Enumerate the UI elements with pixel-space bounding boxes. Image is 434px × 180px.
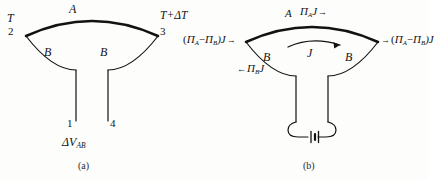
panel-b-battery-wire-right (318, 122, 336, 137)
panel-b-top-flux-current: J (312, 5, 317, 17)
panel-a-caption: (a) (78, 160, 89, 171)
panel-a-terminal-1: 1 (67, 118, 73, 129)
panel-b-right-flux-pi-a: Π (395, 33, 403, 45)
panel-a-conductor-b-right-arc (108, 36, 158, 70)
panel-a-voltage-symbol: ΔV (62, 135, 76, 149)
panel-b-lower-heat-flux: ←ΠBJ (237, 63, 264, 75)
panel-b-left-heat-flux: (ΠA−ΠB)J→ (183, 34, 236, 46)
panel-a-voltage-label: ΔVAB (62, 136, 85, 149)
panel-b-right-flux-pi-b: Π (413, 33, 421, 45)
panel-b-right-flux-arrow-icon: → (381, 35, 390, 45)
panel-b-battery-wire-left (288, 122, 308, 137)
panel-a-label-b-right: B (100, 46, 107, 58)
panel-b-conductor-a-arc (246, 27, 378, 42)
panel-b-right-flux-close: )J (425, 33, 434, 45)
panel-b-label-b-left: B (263, 51, 270, 63)
panel-a-node-3: 3 (160, 26, 166, 37)
panel-a-label-b-left: B (44, 46, 51, 58)
panel-a-label-arc-top: A (69, 3, 76, 15)
panel-b-left-flux-pi-a: Π (187, 33, 195, 45)
panel-b-top-flux-arrow-icon: → (318, 7, 327, 17)
panel-b-top-heat-flux: ΠAJ→ (300, 6, 327, 18)
panel-a-temperature-right: T+ΔT (160, 10, 187, 22)
panel-b-top-flux-pi: Π (300, 5, 308, 17)
panel-a-voltage-subscript: AB (76, 141, 85, 150)
panel-b-right-heat-flux: →(ΠA−ΠB)J (381, 34, 434, 46)
panel-a-node-2: 2 (8, 26, 14, 37)
panel-b-lower-flux-current: J (259, 62, 264, 74)
panel-b-left-flux-close: )J (217, 33, 226, 45)
current-direction-arrowhead-icon (334, 42, 341, 48)
panel-b-lower-flux-arrow-icon: ← (237, 64, 246, 74)
panel-b-current-label: J (307, 47, 312, 59)
panel-b-label-b-right: B (345, 51, 352, 63)
panel-a-conductor-a-arc (26, 21, 158, 36)
panel-b-left-flux-arrow-icon: → (227, 35, 236, 45)
panel-b-caption: (b) (303, 160, 315, 171)
panel-b-label-arc-top: A (285, 8, 292, 19)
panel-b-lower-flux-pi-b: Π (247, 62, 255, 74)
panel-a-temperature-left: T (7, 12, 14, 24)
current-direction-arc (288, 41, 340, 47)
panel-a-terminal-4: 4 (110, 118, 116, 129)
panel-b-left-flux-pi-b: Π (205, 33, 213, 45)
